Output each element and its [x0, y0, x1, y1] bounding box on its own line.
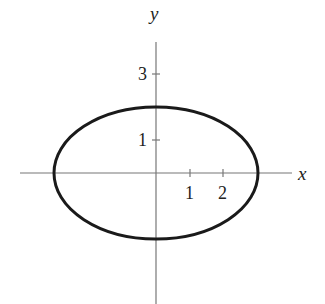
y-tick-label-1: 1 [138, 130, 147, 150]
x-tick-label-1: 1 [185, 183, 194, 203]
y-tick-label-3: 3 [138, 64, 147, 84]
y-axis-label: y [148, 3, 159, 24]
chart-svg: y x 3 1 1 2 [0, 0, 325, 304]
x-tick-label-2: 2 [218, 183, 227, 203]
x-axis-label: x [297, 163, 307, 184]
chart-container: y x 3 1 1 2 [0, 0, 325, 304]
